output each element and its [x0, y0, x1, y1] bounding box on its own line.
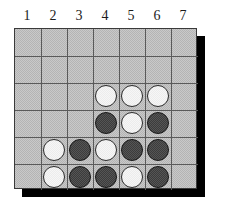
board-cell[interactable] — [41, 110, 67, 137]
board-cell[interactable] — [15, 56, 41, 83]
board-cell[interactable] — [15, 110, 41, 137]
board-cell[interactable] — [145, 110, 171, 137]
game-board[interactable] — [14, 28, 197, 189]
board-cell[interactable] — [145, 56, 171, 83]
board-cell[interactable] — [145, 137, 171, 164]
column-header-4: 4 — [92, 5, 118, 26]
board-cell[interactable] — [41, 56, 67, 83]
board-cell[interactable] — [93, 137, 119, 164]
board-cell[interactable] — [41, 83, 67, 110]
dark-disc[interactable] — [69, 166, 91, 188]
board-cell[interactable] — [67, 164, 93, 191]
board-cell[interactable] — [41, 29, 67, 56]
board-cell[interactable] — [67, 83, 93, 110]
dark-disc[interactable] — [95, 112, 117, 134]
board-cell[interactable] — [93, 83, 119, 110]
board-cell[interactable] — [119, 56, 145, 83]
board-cell[interactable] — [171, 83, 197, 110]
board-cell[interactable] — [15, 164, 41, 191]
white-disc[interactable] — [95, 139, 117, 161]
board-cell[interactable] — [171, 137, 197, 164]
board-cell[interactable] — [171, 29, 197, 56]
board-cell[interactable] — [171, 110, 197, 137]
board-cell[interactable] — [93, 110, 119, 137]
board-cell[interactable] — [171, 164, 197, 191]
board-cell[interactable] — [119, 137, 145, 164]
board-cell[interactable] — [119, 29, 145, 56]
column-header-7: 7 — [170, 5, 196, 26]
board-cell[interactable] — [41, 164, 67, 191]
board-cell[interactable] — [119, 83, 145, 110]
column-header-row: 1234567 — [14, 5, 197, 26]
board-cell[interactable] — [171, 56, 197, 83]
dark-disc[interactable] — [147, 112, 169, 134]
column-header-2: 2 — [40, 5, 66, 26]
board-cell[interactable] — [93, 164, 119, 191]
board-cell[interactable] — [15, 137, 41, 164]
board-cell[interactable] — [145, 29, 171, 56]
board-cell[interactable] — [119, 164, 145, 191]
column-header-1: 1 — [14, 5, 40, 26]
board-cell[interactable] — [93, 56, 119, 83]
white-disc[interactable] — [121, 166, 143, 188]
board-cell[interactable] — [119, 110, 145, 137]
board-cell[interactable] — [145, 164, 171, 191]
column-header-5: 5 — [118, 5, 144, 26]
white-disc[interactable] — [121, 112, 143, 134]
white-disc[interactable] — [43, 166, 65, 188]
board-cell[interactable] — [145, 83, 171, 110]
white-disc[interactable] — [147, 85, 169, 107]
board-cell[interactable] — [67, 29, 93, 56]
dark-disc[interactable] — [147, 166, 169, 188]
dark-disc[interactable] — [95, 166, 117, 188]
board-cell[interactable] — [67, 56, 93, 83]
board-cell[interactable] — [67, 137, 93, 164]
dark-disc[interactable] — [121, 139, 143, 161]
white-disc[interactable] — [95, 85, 117, 107]
white-disc[interactable] — [121, 85, 143, 107]
column-header-3: 3 — [66, 5, 92, 26]
board-cell[interactable] — [93, 29, 119, 56]
board-cell[interactable] — [41, 137, 67, 164]
board-cell[interactable] — [67, 110, 93, 137]
reversi-game-screen: 1234567 — [0, 0, 226, 210]
dark-disc[interactable] — [69, 139, 91, 161]
dark-disc[interactable] — [147, 139, 169, 161]
column-header-6: 6 — [144, 5, 170, 26]
board-cell[interactable] — [15, 83, 41, 110]
white-disc[interactable] — [43, 139, 65, 161]
board-cell[interactable] — [15, 29, 41, 56]
